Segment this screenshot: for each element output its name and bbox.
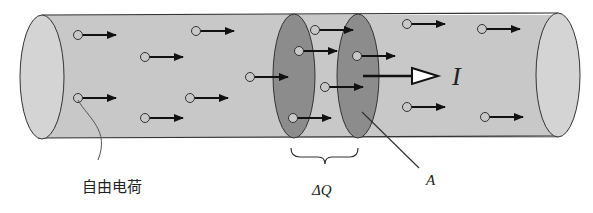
conductor-left-end [20,15,64,139]
delta-q-brace [291,148,358,164]
free-charge [186,94,195,103]
free-charge [481,113,490,122]
free-charge [478,25,487,34]
area-label: A [425,172,436,188]
free-charge [246,73,255,82]
free-charge [192,27,201,36]
free-charge [321,83,330,92]
free-charge [403,103,412,112]
conductor-diagram: I 自由电荷 ΔQ A [0,0,593,213]
free-charge [141,114,150,123]
conductor-right-end [536,13,580,137]
free-charge [74,31,83,40]
free-charge [289,114,298,123]
free-charge [403,20,412,29]
free-charge [141,53,150,62]
free-charge [311,26,320,35]
free-charge [74,94,83,103]
delta-q-label: ΔQ [311,182,332,198]
free-charge [353,52,362,61]
free-charge [295,47,304,56]
free-charge-label: 自由电荷 [82,178,142,196]
current-label: I [451,62,462,91]
